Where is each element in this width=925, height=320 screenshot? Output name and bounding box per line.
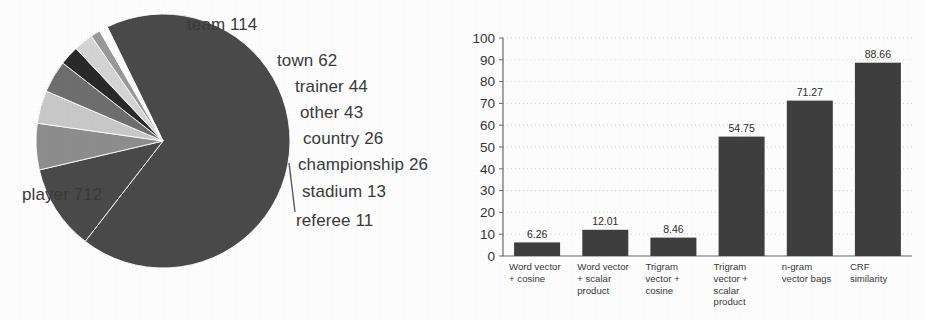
- y-axis-tick-label: 0: [487, 249, 495, 264]
- pie-chart-panel: team 114 town 62 trainer 44 other 43 cou…: [0, 0, 460, 320]
- bar-6: [855, 63, 901, 256]
- bar-category-label-line: product: [714, 296, 786, 308]
- bar-category-label-line: Word vector: [577, 261, 649, 273]
- bar-chart-panel: 0102030405060708090100 6.2612.018.4654.7…: [460, 0, 925, 320]
- bar-category-label-line: product: [577, 285, 649, 297]
- y-axis-tick-label: 100: [472, 31, 495, 46]
- referee-leader-line: [289, 163, 295, 212]
- bar-value-label: 12.01: [592, 215, 618, 227]
- bar-category-label-line: Trigram: [714, 261, 786, 273]
- bar-value-label: 8.46: [663, 223, 684, 235]
- bar-category-label-line: scalar: [714, 285, 786, 297]
- pie-label-stadium: stadium 13: [302, 183, 386, 201]
- y-axis-tick-label: 20: [480, 205, 495, 220]
- y-axis-tick-label: 40: [480, 162, 495, 177]
- bar-5: [787, 101, 833, 256]
- bar-category-label: Trigramvector +cosine: [645, 261, 717, 296]
- pie-label-team: team 114: [187, 16, 257, 34]
- bar-category-label-line: cosine: [645, 285, 717, 297]
- bar-4: [719, 137, 765, 256]
- y-axis-tick-label: 50: [480, 140, 495, 155]
- pie-slice-group: [36, 14, 290, 268]
- bar-value-label: 88.66: [865, 48, 891, 60]
- pie-label-player: player 712: [22, 186, 102, 204]
- y-axis-tick-label: 10: [480, 227, 495, 242]
- bar-value-label: 54.75: [728, 122, 754, 134]
- y-axis-tick-label: 90: [480, 53, 495, 68]
- bar-category-label-line: CRF: [850, 261, 922, 273]
- pie-label-championship: championship 26: [298, 156, 428, 174]
- bar-category-label-line: + scalar: [577, 273, 649, 285]
- y-axis-tick-label: 70: [480, 96, 495, 111]
- bar-category-label: n-gramvector bags: [782, 261, 854, 285]
- bar-category-label-line: vector +: [714, 273, 786, 285]
- bar-category-label-line: vector bags: [782, 273, 854, 285]
- bar-category-label-line: similarity: [850, 273, 922, 285]
- bar-category-label-line: Word vector: [509, 261, 581, 273]
- y-axis-tick-label: 80: [480, 74, 495, 89]
- bar-category-label-line: vector +: [645, 273, 717, 285]
- bar-2: [582, 230, 628, 256]
- y-axis-tick-label: 60: [480, 118, 495, 133]
- pie-label-country: country 26: [303, 130, 383, 148]
- bar-category-label-line: Trigram: [645, 261, 717, 273]
- figure-root: team 114 town 62 trainer 44 other 43 cou…: [0, 0, 925, 320]
- pie-label-other: other 43: [300, 104, 363, 122]
- bar-value-label: 6.26: [527, 228, 548, 240]
- bar-category-label: Word vector+ cosine: [509, 261, 581, 285]
- bar-value-label-group: 6.2612.018.4654.7571.2788.66: [527, 48, 891, 240]
- bar-value-label: 71.27: [797, 86, 823, 98]
- bar-category-label: CRFsimilarity: [850, 261, 922, 285]
- pie-label-town: town 62: [277, 52, 337, 70]
- pie-label-trainer: trainer 44: [295, 78, 368, 96]
- bar-rect-group: [514, 63, 901, 256]
- y-axis-tick-label: 30: [480, 183, 495, 198]
- bar-category-label: Trigramvector +scalarproduct: [714, 261, 786, 308]
- bar-category-label-line: + cosine: [509, 273, 581, 285]
- bar-category-label-line: n-gram: [782, 261, 854, 273]
- bar-3: [650, 238, 696, 256]
- bar-category-label: Word vector+ scalarproduct: [577, 261, 649, 296]
- bar-1: [514, 242, 560, 256]
- bar-ytick-group: 0102030405060708090100: [472, 31, 503, 264]
- bar-gridline-group: [503, 38, 912, 234]
- pie-label-referee: referee 11: [296, 212, 373, 230]
